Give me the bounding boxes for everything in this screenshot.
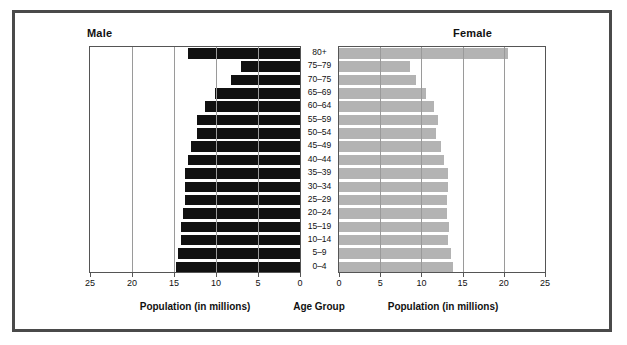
bar-female-35–39[interactable]	[339, 168, 448, 179]
bar-female-45–49[interactable]	[339, 141, 441, 152]
right-tick-label-5: 5	[378, 278, 383, 288]
bar-row	[339, 194, 545, 207]
bar-row	[339, 114, 545, 127]
age-group-label-5–9: 5–9	[301, 246, 338, 259]
bar-male-30–34[interactable]	[185, 182, 300, 193]
bar-male-0–4[interactable]	[176, 262, 300, 273]
bar-row	[339, 127, 545, 140]
bar-female-10–14[interactable]	[339, 235, 448, 246]
bar-row	[90, 100, 300, 113]
age-group-label-60–64: 60–64	[301, 99, 338, 112]
bar-male-5–9[interactable]	[178, 248, 300, 259]
bar-row	[90, 207, 300, 220]
bar-female-30–34[interactable]	[339, 182, 448, 193]
right-tick-mark-15	[463, 273, 464, 277]
bar-female-70–75[interactable]	[339, 75, 416, 86]
bar-female-20–24[interactable]	[339, 208, 447, 219]
right-tick-label-20: 20	[499, 278, 509, 288]
bar-male-25–29[interactable]	[185, 195, 300, 206]
right-axis-caption: Population (in millions)	[388, 301, 499, 312]
left-axis-caption: Population (in millions)	[140, 301, 251, 312]
bar-male-35–39[interactable]	[185, 168, 300, 179]
right-tick-label-0: 0	[336, 278, 341, 288]
bar-male-40–44[interactable]	[188, 155, 300, 166]
bar-row	[339, 100, 545, 113]
age-group-label-75–79: 75–79	[301, 59, 338, 72]
right-tick-mark-10	[421, 273, 422, 277]
bar-female-0–4[interactable]	[339, 262, 453, 273]
gridline-20	[132, 47, 133, 272]
bar-row	[339, 181, 545, 194]
bar-male-60–64[interactable]	[205, 101, 300, 112]
gridline-5	[380, 47, 381, 272]
bar-male-15–19[interactable]	[181, 222, 300, 233]
left-tick-label-20: 20	[127, 278, 137, 288]
age-group-labels: 80+75–7970–7565–6960–6455–5950–5445–4940…	[301, 46, 338, 273]
male-title: Male	[87, 27, 112, 39]
left-tick-mark-10	[216, 273, 217, 277]
bar-male-50–54[interactable]	[197, 128, 300, 139]
bar-male-75–79[interactable]	[241, 61, 300, 72]
bar-row	[339, 207, 545, 220]
left-tick-label-25: 25	[85, 278, 95, 288]
bar-male-80+[interactable]	[188, 48, 300, 59]
left-tick-mark-0	[300, 273, 301, 277]
bar-row	[90, 181, 300, 194]
bar-row	[339, 247, 545, 260]
bar-female-80+[interactable]	[339, 48, 508, 59]
gridline-5	[258, 47, 259, 272]
right-tick-label-10: 10	[416, 278, 426, 288]
age-group-label-70–75: 70–75	[301, 73, 338, 86]
bar-row	[90, 247, 300, 260]
female-plot-panel	[338, 46, 546, 273]
bar-row	[339, 221, 545, 234]
left-tick-mark-5	[258, 273, 259, 277]
age-group-label-45–49: 45–49	[301, 139, 338, 152]
bar-row	[90, 194, 300, 207]
bar-row	[339, 60, 545, 73]
age-axis-caption: Age Group	[293, 301, 345, 312]
bar-row	[339, 47, 545, 60]
bar-female-55–59[interactable]	[339, 115, 438, 126]
bar-male-55–59[interactable]	[197, 115, 300, 126]
bar-female-75–79[interactable]	[339, 61, 410, 72]
right-tick-mark-5	[380, 273, 381, 277]
bar-row	[90, 154, 300, 167]
bar-female-65–69[interactable]	[339, 88, 426, 99]
right-tick-label-15: 15	[458, 278, 468, 288]
age-group-label-80+: 80+	[301, 46, 338, 59]
age-group-label-30–34: 30–34	[301, 180, 338, 193]
bar-female-25–29[interactable]	[339, 195, 447, 206]
left-tick-mark-20	[132, 273, 133, 277]
gridline-15	[463, 47, 464, 272]
bar-male-10–14[interactable]	[181, 235, 300, 246]
bar-row	[90, 221, 300, 234]
left-tick-label-5: 5	[255, 278, 260, 288]
bar-row	[90, 74, 300, 87]
right-tick-mark-25	[545, 273, 546, 277]
bar-row	[339, 74, 545, 87]
bar-female-40–44[interactable]	[339, 155, 444, 166]
gridline-20	[504, 47, 505, 272]
male-plot-panel	[89, 46, 301, 273]
gridline-15	[174, 47, 175, 272]
age-group-label-15–19: 15–19	[301, 220, 338, 233]
bar-row	[90, 60, 300, 73]
bar-male-70–75[interactable]	[231, 75, 300, 86]
bar-male-45–49[interactable]	[191, 141, 300, 152]
bar-row	[90, 167, 300, 180]
bar-row	[90, 127, 300, 140]
bar-row	[339, 234, 545, 247]
bar-row	[339, 167, 545, 180]
bar-male-20–24[interactable]	[183, 208, 300, 219]
age-group-label-40–44: 40–44	[301, 153, 338, 166]
left-tick-label-0: 0	[297, 278, 302, 288]
bar-female-15–19[interactable]	[339, 222, 449, 233]
age-group-label-55–59: 55–59	[301, 113, 338, 126]
age-group-label-35–39: 35–39	[301, 166, 338, 179]
bar-row	[90, 140, 300, 153]
bar-female-5–9[interactable]	[339, 248, 451, 259]
bar-female-60–64[interactable]	[339, 101, 434, 112]
female-title: Female	[453, 27, 492, 39]
bar-row	[90, 47, 300, 60]
